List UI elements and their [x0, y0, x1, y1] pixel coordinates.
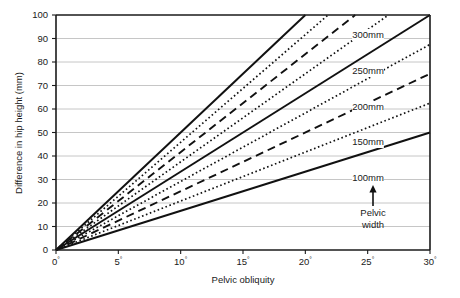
series-label-300mm: 300mm — [352, 29, 384, 40]
y-tick-label-0: 0 — [43, 244, 48, 255]
degree-symbol: ° — [372, 256, 375, 263]
degree-symbol: ° — [434, 256, 437, 263]
y-tick-label-20: 20 — [37, 197, 48, 208]
series-label-250mm: 250mm — [352, 65, 384, 76]
y-axis-title: Difference in hip height (mm) — [13, 72, 24, 194]
series-label-200mm: 200mm — [352, 101, 384, 112]
x-axis-title: Pelvic obliquity — [212, 274, 275, 285]
degree-symbol: ° — [185, 256, 188, 263]
y-tick-label-70: 70 — [37, 80, 48, 91]
series-label-150mm: 150mm — [352, 136, 384, 147]
degree-symbol: ° — [57, 256, 60, 263]
y-tick-label-90: 90 — [37, 33, 48, 44]
y-tick-label-10: 10 — [37, 221, 48, 232]
degree-symbol: ° — [247, 256, 250, 263]
annotation-text-line1: Pelvic — [360, 207, 386, 218]
y-tick-label-60: 60 — [37, 103, 48, 114]
degree-symbol: ° — [309, 256, 312, 263]
y-tick-label-30: 30 — [37, 174, 48, 185]
annotation-text-line2: width — [361, 219, 384, 230]
y-tick-label-40: 40 — [37, 150, 48, 161]
y-tick-label-100: 100 — [32, 9, 48, 20]
y-tick-label-50: 50 — [37, 127, 48, 138]
y-tick-label-80: 80 — [37, 56, 48, 67]
chart-figure: 0102030405060708090100 0°5°10°15°20°25°3… — [0, 0, 460, 298]
pelvic-obliquity-chart: 0102030405060708090100 0°5°10°15°20°25°3… — [0, 0, 460, 298]
degree-symbol: ° — [120, 256, 123, 263]
series-label-100mm: 100mm — [352, 172, 384, 183]
chart-background — [0, 0, 460, 298]
